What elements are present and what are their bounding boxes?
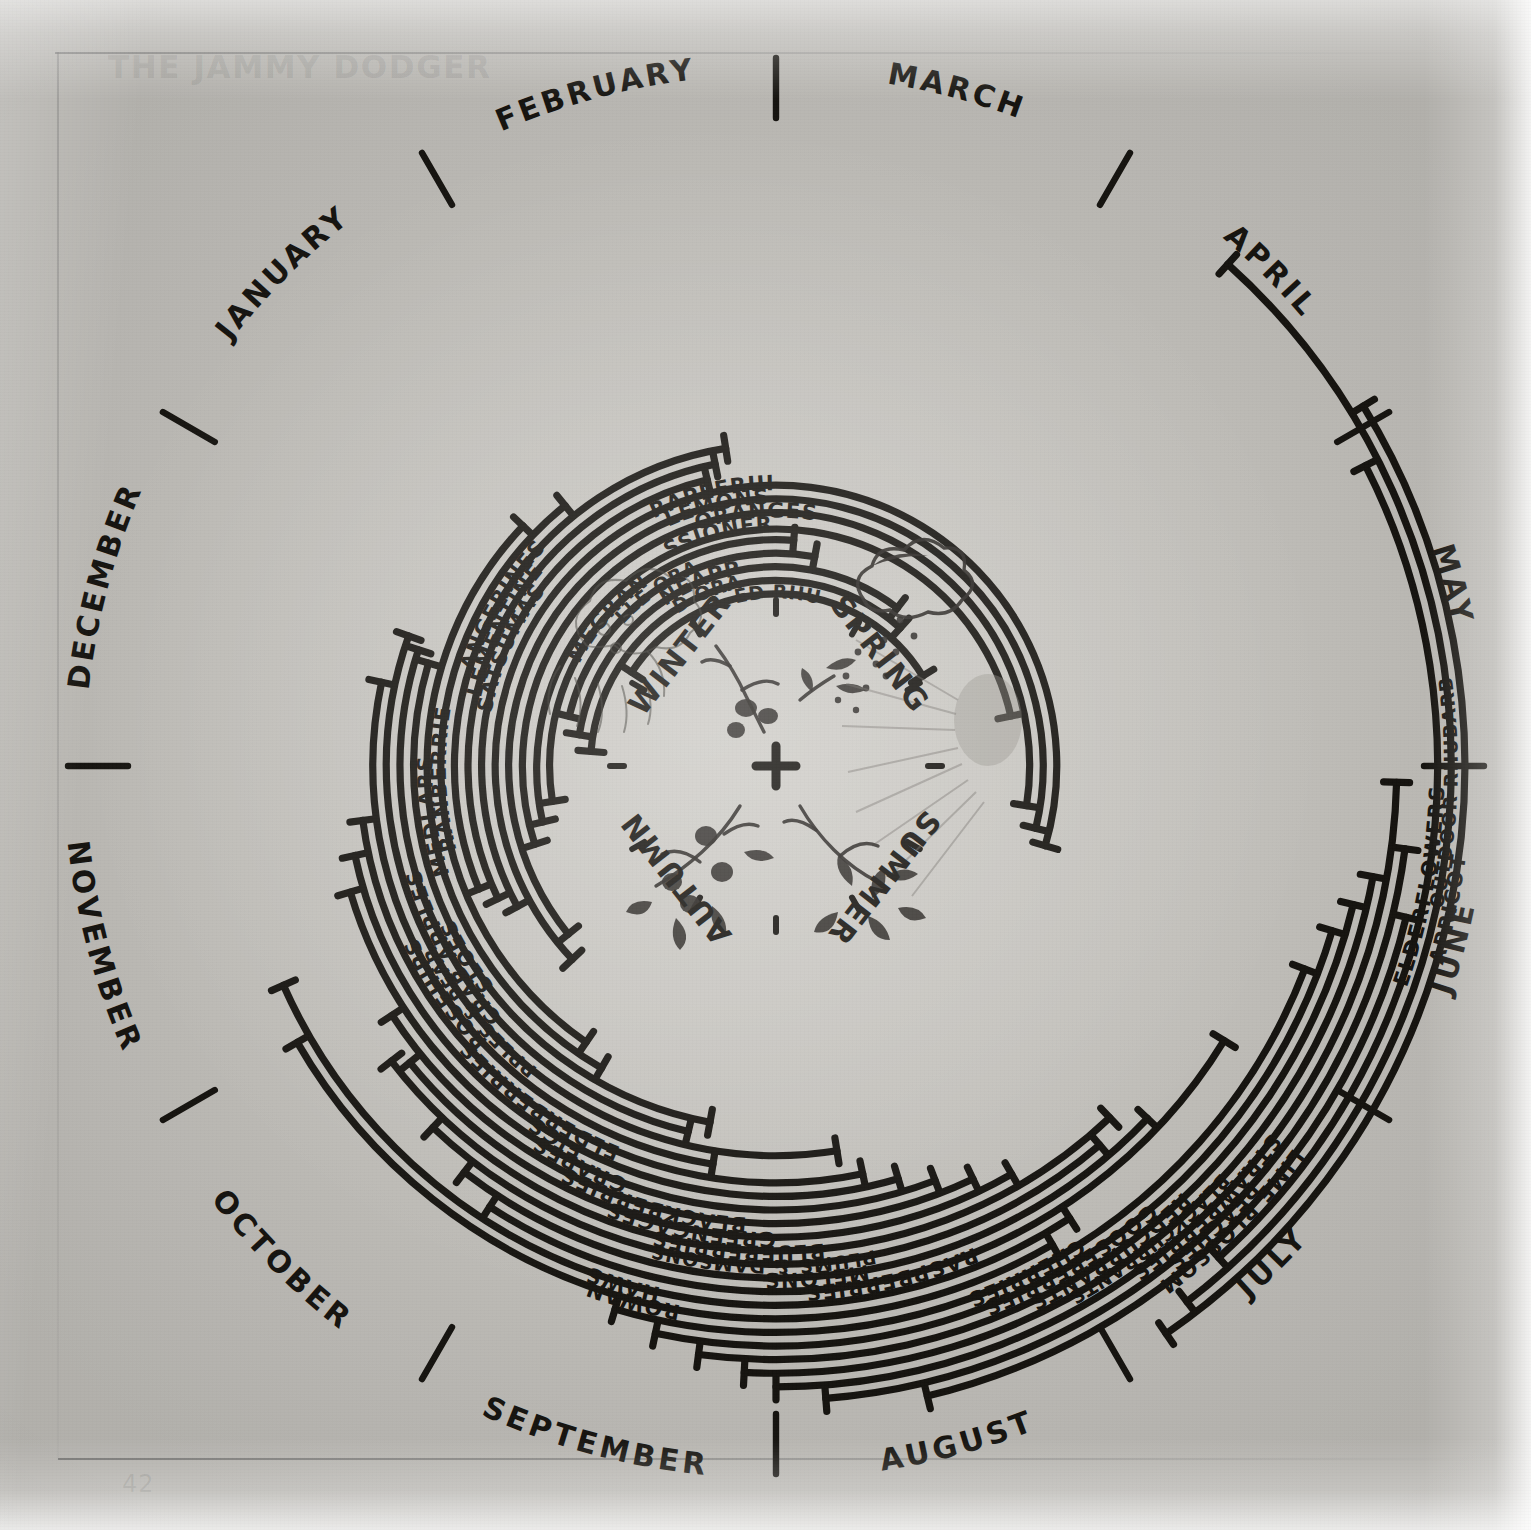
arc-start-cap [556,713,581,719]
arc-start-cap [540,799,566,803]
arc-end-cap [653,1321,658,1346]
arc-start-cap [1392,847,1418,850]
month-label-january: JANUARY [207,198,356,348]
spring-seedling-motif [800,658,866,700]
month-label-september: SEPTEMBER [478,1389,711,1483]
month-tick [163,412,215,442]
arc-start-cap [1360,874,1386,879]
arc-start-cap [835,1138,839,1164]
arc-end-cap [812,544,817,570]
winter-branch-motif [702,646,778,738]
arc-start-cap [931,1168,940,1192]
arc-start-cap [967,1167,978,1191]
arc-start-cap [1384,782,1410,783]
arc-start-cap [708,1110,713,1136]
arc-end-cap [724,436,728,462]
arc-start-cap [895,1166,902,1191]
arc-end-cap [416,659,441,666]
hub-center-mark [756,746,796,786]
arc-start-cap [578,750,604,752]
month-label-november: NOVEMBER [60,838,150,1057]
arc-start-cap [522,840,547,848]
arc-end-cap [697,1342,700,1368]
arc-end-cap [369,680,394,685]
arc-end-cap [1033,842,1058,849]
arc-end-cap [342,853,367,858]
arc-end-cap [338,888,363,895]
arc-start-cap [860,1161,865,1186]
page-number: 42 [122,1470,155,1498]
bleed-through-title: THE JAMMY DODGER [108,47,491,85]
fruit-label: TANGERINES [0,0,551,673]
month-label-october: OCTOBER [205,1182,360,1337]
month-tick [1100,1327,1130,1379]
month-tick [422,153,452,205]
arc-end-cap [397,632,422,641]
arc-start-cap [1293,964,1317,973]
arc-start-cap [1341,902,1366,908]
arc-end-cap [350,819,376,822]
arc-end-cap [1014,804,1040,808]
fruit-arc [744,874,1386,1385]
month-label-march: MARCH [885,56,1031,126]
seasonal-fruit-wheel-page: FORCED RHUBARBBLOOD ORANGESPINEAPPLESEVI… [0,0,1531,1530]
month-tick [1100,153,1130,205]
month-label-february: FEBRUARY [490,51,697,138]
fruit-wheel-diagram: FORCED RHUBARBBLOOD ORANGESPINEAPPLESEVI… [0,0,1531,1530]
month-label-december: DECEMBER [61,477,150,692]
arc-start-cap [711,1151,715,1177]
arc-start-cap [486,893,509,904]
arc-end-cap [406,646,431,654]
arc-end-cap [713,451,718,477]
month-tick [422,1327,452,1379]
arc-start-cap [685,1119,691,1144]
arc-end-cap [825,1386,827,1412]
season-span-arc [927,917,1406,1396]
arc-end-cap [1023,825,1048,831]
arc-start-cap [1320,927,1345,934]
arc-start-cap [467,884,491,894]
arc-start-cap [530,819,555,825]
fruit-label: CRANBERRIES [0,0,461,854]
month-label-august: AUGUST [877,1403,1039,1478]
arc-start-cap [566,733,592,737]
arc-end-cap [744,1359,745,1385]
month-tick [163,1090,215,1120]
arc-end-cap [272,980,296,991]
arc-end-cap [924,1384,930,1409]
